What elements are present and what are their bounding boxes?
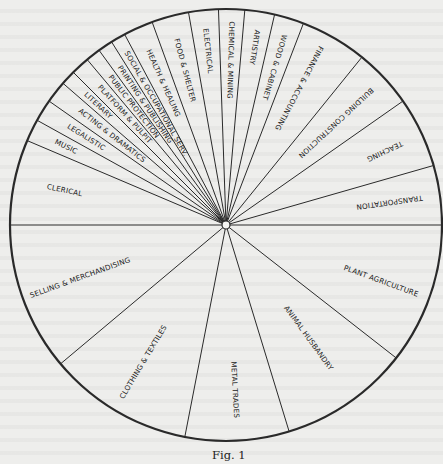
spoke-line [226, 57, 362, 225]
spoke-line [61, 225, 226, 364]
figure-caption: Fig. 1 [212, 448, 246, 462]
spoke-line [226, 23, 303, 225]
segment-label-animal-husbandry: ANIMAL HUSBANDRY [282, 304, 335, 373]
spoke-line [226, 165, 434, 225]
segment-label-wood-cabinet: WOOD & CABINET [260, 33, 289, 101]
segment-label-plant-agriculture: PLANT AGRICULTURE [343, 263, 420, 299]
segment-label-chemical-mining: CHEMICAL & MINING [225, 21, 236, 99]
segment-label-food-shelter: FOOD & SHELTER [172, 38, 198, 104]
center-hub [222, 221, 230, 229]
segment-label-clerical: CLERICAL [46, 182, 83, 198]
segment-label-metal-trades: METAL TRADES [229, 361, 241, 418]
segment-label-selling-merchandising: SELLING & MERCHANDISING [29, 255, 132, 300]
spoke-line [185, 225, 226, 437]
spoke-line [27, 141, 226, 225]
spoke-line [218, 9, 226, 225]
segment-label-clothing-textiles: CLOTHING & TEXTILES [117, 323, 168, 400]
segment-label-teaching: TEACHING [365, 139, 405, 164]
segment-label-electrical: ELECTRICAL [201, 28, 215, 74]
occupations-wheel-diagram: CLERICALMUSICLEGALISTICACTING & DRAMATIC… [0, 0, 443, 464]
segment-label-transportation: TRANSPORTATION [356, 193, 425, 211]
segment-label-artistry: ARTISTRY [247, 29, 261, 66]
